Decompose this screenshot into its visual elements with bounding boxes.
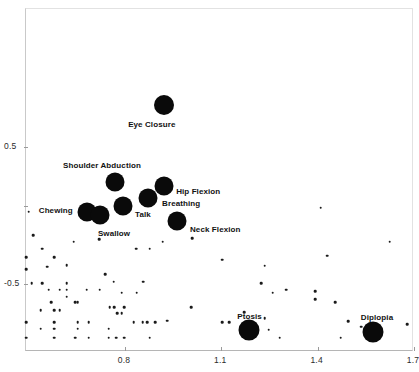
scatter-point-item[interactable] [239, 319, 260, 340]
scatter-point-item[interactable] [362, 322, 383, 343]
scatter-point-person [65, 289, 68, 292]
scatter-point-person [190, 306, 193, 309]
y-axis-tick-label: -0.5 [4, 278, 19, 288]
scatter-point-person [76, 321, 79, 324]
scatter-point-person [136, 291, 139, 294]
scatter-point-person [120, 291, 123, 294]
scatter-point-person [314, 290, 317, 293]
scatter-point-person [116, 312, 119, 315]
scatter-point-item[interactable] [155, 176, 174, 195]
scatter-point-person [65, 295, 68, 298]
scatter-point-person [74, 337, 77, 340]
scatter-point-person [339, 337, 342, 340]
scatter-point-person [53, 256, 56, 259]
scatter-point-person [25, 337, 28, 340]
scatter-point-person [161, 241, 164, 244]
scatter-point-person [65, 264, 68, 267]
scatter-point-label: Chewing [39, 207, 73, 215]
scatter-point-person [107, 337, 110, 340]
scatter-point-person [148, 247, 151, 250]
scatter-point-person [263, 265, 266, 268]
scatter-point-person [263, 317, 266, 320]
scatter-point-person [98, 289, 101, 292]
x-axis-tick [318, 347, 319, 351]
scatter-point-person [221, 321, 224, 324]
scatter-point-person [58, 289, 61, 292]
scatter-point-person [87, 321, 90, 324]
scatter-point-person [115, 337, 118, 340]
scatter-point-item[interactable] [167, 212, 186, 231]
scatter-point-person [76, 328, 79, 331]
scatter-point-person [326, 254, 329, 257]
scatter-point-person [30, 282, 33, 285]
scatter-point-item[interactable] [90, 205, 109, 224]
scatter-point-person [58, 309, 61, 312]
scatter-point-person [25, 321, 28, 324]
scatter-point-person [39, 328, 42, 331]
scatter-point-person [132, 321, 135, 324]
scatter-point-item[interactable] [114, 197, 133, 216]
scatter-point-person [221, 258, 224, 261]
scatter-point-person [135, 247, 138, 250]
scatter-point-label: Breathing [162, 200, 200, 208]
scatter-point-person [334, 301, 337, 304]
x-axis-tick-label: 1.7 [407, 355, 419, 365]
scatter-point-person [76, 301, 79, 304]
scatter-point-person [87, 337, 90, 340]
scatter-point-item[interactable] [106, 172, 125, 191]
scatter-point-label: Diplopia [361, 314, 393, 322]
scatter-point-person [25, 256, 28, 259]
scatter-point-person [360, 326, 363, 329]
scatter-point-person [141, 321, 144, 324]
scatter-point-person [53, 337, 56, 340]
scatter-point-person [98, 238, 101, 241]
scatter-point-person [113, 306, 116, 309]
scatter-point-person [65, 282, 68, 285]
x-axis-tick [125, 347, 126, 351]
x-axis-tick [414, 347, 415, 351]
scatter-point-label: Eye Closure [128, 121, 175, 129]
scatter-point-person [142, 280, 145, 283]
y-axis-tick [24, 147, 28, 148]
scatter-point-person [228, 321, 231, 324]
x-axis-tick-label: 1.1 [214, 355, 226, 365]
scatter-point-label: Talk [135, 211, 151, 219]
scatter-point-person [146, 321, 149, 324]
x-axis-tick-label: 1.4 [310, 355, 322, 365]
scatter-point-person [41, 282, 44, 285]
scatter-point-person [191, 237, 194, 240]
scatter-point-person [85, 289, 88, 292]
scatter-point-person [278, 337, 281, 340]
plot-area [25, 8, 413, 351]
scatter-chart-figure: In-fitting items and persons Eye Closure… [0, 0, 419, 372]
x-axis-tick [221, 347, 222, 351]
x-axis-tick-label: 0.8 [118, 355, 130, 365]
scatter-point-label: Shoulder Abduction [63, 162, 141, 170]
scatter-point-person [154, 321, 157, 324]
scatter-point-person [123, 306, 126, 309]
scatter-point-person [347, 320, 350, 323]
scatter-point-person [107, 328, 110, 331]
scatter-point-person [46, 265, 49, 268]
scatter-point-person [27, 210, 30, 213]
scatter-point-person [72, 241, 75, 244]
scatter-point-person [166, 319, 169, 322]
scatter-point-person [389, 241, 392, 244]
scatter-point-person [260, 282, 263, 285]
scatter-point-person [120, 312, 123, 315]
scatter-point-label: Neck Flexion [190, 226, 241, 234]
scatter-point-person [267, 328, 270, 331]
scatter-point-label: Hip Flexion [176, 188, 220, 196]
scatter-point-label: Swallow [98, 230, 130, 238]
scatter-point-person [271, 291, 274, 294]
scatter-point-item[interactable] [154, 95, 174, 115]
scatter-point-person [53, 309, 56, 312]
scatter-point-person [53, 328, 56, 331]
scatter-point-item[interactable] [139, 189, 158, 208]
scatter-point-person [112, 280, 115, 283]
y-axis-tick-label: 0.5 [4, 141, 16, 151]
scatter-point-person [53, 321, 56, 324]
scatter-point-label: Ptosis [237, 313, 262, 321]
scatter-point-person [148, 337, 151, 340]
scatter-point-person [47, 289, 50, 292]
